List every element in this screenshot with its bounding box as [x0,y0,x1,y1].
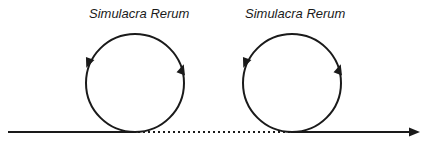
loop-circle-right [243,34,341,132]
arrowhead-up-icon [177,63,189,75]
loop-circle-left [86,34,184,132]
diagram: Simulacra Rerum Simulacra Rerum [0,0,426,148]
arrowhead-right-icon [409,128,420,137]
loop-label-right: Simulacra Rerum [245,6,345,21]
loop-label-left: Simulacra Rerum [89,6,189,21]
arrowhead-up-icon [334,63,346,75]
diagram-canvas [0,0,426,148]
